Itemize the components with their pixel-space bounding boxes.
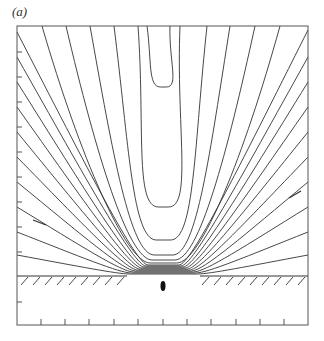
streamline-curve <box>147 26 173 87</box>
streamline-curve <box>114 26 207 240</box>
streamline-curve <box>17 207 308 272</box>
hatch-mark <box>33 277 40 285</box>
hatch-mark <box>117 277 124 285</box>
streamline-curves <box>17 26 308 274</box>
hatch-mark <box>250 277 257 285</box>
axis-ticks <box>17 52 284 325</box>
hatch-mark <box>298 277 305 285</box>
streamline-curve <box>42 26 280 263</box>
hatch-mark <box>69 277 76 285</box>
hatch-mark <box>45 277 52 285</box>
hatch-mark <box>274 277 281 285</box>
hatch-mark <box>105 277 112 285</box>
flow-arrows <box>33 191 301 225</box>
streamline-curve <box>17 57 308 266</box>
streamline-curve <box>17 157 308 270</box>
hatch-mark <box>214 277 221 285</box>
streamline-curve <box>17 107 308 268</box>
streamline-curve <box>17 182 308 271</box>
hatch-mark <box>93 277 100 285</box>
aperture-object <box>161 281 166 291</box>
particle-icon <box>161 281 166 291</box>
hatch-mark <box>226 277 233 285</box>
hatch-mark <box>202 277 209 285</box>
hatch-mark <box>81 277 88 285</box>
streamline-curve <box>138 26 182 207</box>
flow-arrow <box>289 191 301 198</box>
contour-figure <box>0 0 324 341</box>
hatch-mark <box>238 277 245 285</box>
streamline-curve <box>17 30 308 265</box>
hatch-mark <box>262 277 269 285</box>
streamline-curve <box>17 82 308 267</box>
hatch-mark <box>286 277 293 285</box>
hatch-mark <box>21 277 28 285</box>
hatch-mark <box>57 277 64 285</box>
